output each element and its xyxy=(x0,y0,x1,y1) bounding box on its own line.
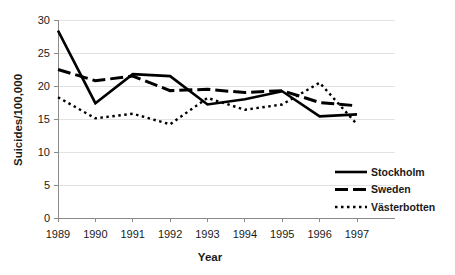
line-chart-canvas: 051015202530 198919901991199219931994199… xyxy=(0,0,455,275)
data-series-group xyxy=(58,31,357,125)
x-tick-label: 1992 xyxy=(158,228,182,240)
x-tick-label: 1989 xyxy=(46,228,70,240)
x-tick-label: 1995 xyxy=(270,228,294,240)
y-tick-label: 20 xyxy=(38,80,50,92)
y-tick-label: 5 xyxy=(44,179,50,191)
y-tick-label: 10 xyxy=(38,146,50,158)
y-tick-label: 15 xyxy=(38,113,50,125)
chart-figure: 051015202530 198919901991199219931994199… xyxy=(0,0,455,275)
legend-label-v-sterbotten: Västerbotten xyxy=(371,201,435,213)
series-line-stockholm xyxy=(58,31,357,117)
x-tick-label: 1990 xyxy=(83,228,107,240)
x-tick-label: 1994 xyxy=(233,228,257,240)
y-tick-label: 25 xyxy=(38,47,50,59)
legend-label-sweden: Sweden xyxy=(371,183,411,195)
y-axis-title: Suicides/100,000 xyxy=(12,74,24,166)
x-tick-label: 1991 xyxy=(121,228,145,240)
legend: StockholmSwedenVästerbotten xyxy=(335,166,435,213)
y-tick-label: 0 xyxy=(44,212,50,224)
y-tick-label: 30 xyxy=(38,14,50,26)
x-tick-label: 1993 xyxy=(195,228,219,240)
x-axis-title: Year xyxy=(198,251,223,263)
x-tick-label: 1996 xyxy=(307,228,331,240)
x-axis-ticks-group: 198919901991199219931994199519961997 xyxy=(46,218,369,240)
legend-label-stockholm: Stockholm xyxy=(371,166,425,178)
y-axis-ticks-group: 051015202530 xyxy=(38,14,58,224)
x-tick-label: 1997 xyxy=(345,228,369,240)
